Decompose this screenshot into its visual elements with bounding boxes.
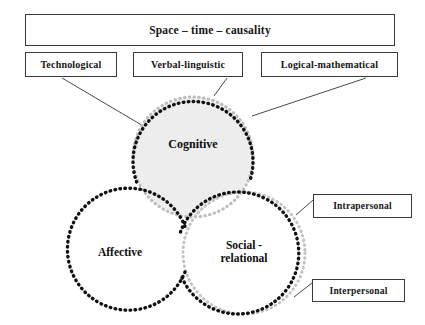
title-box-space-time-causality: Space – time – causality [25, 14, 395, 46]
circle-social-fill [184, 193, 304, 313]
venn-diagram-canvas: Cognitive Affective Social - relational … [0, 0, 425, 325]
box-verbal-linguistic: Verbal-linguistic [133, 52, 243, 77]
box-technological: Technological [25, 52, 117, 77]
circle-affective-fill [60, 193, 180, 313]
box-logical-mathematical: Logical-mathematical [261, 52, 398, 77]
venn-circles-layer [0, 0, 425, 325]
box-interpersonal: Interpersonal [312, 279, 405, 302]
box-intrapersonal: Intrapersonal [313, 194, 412, 218]
